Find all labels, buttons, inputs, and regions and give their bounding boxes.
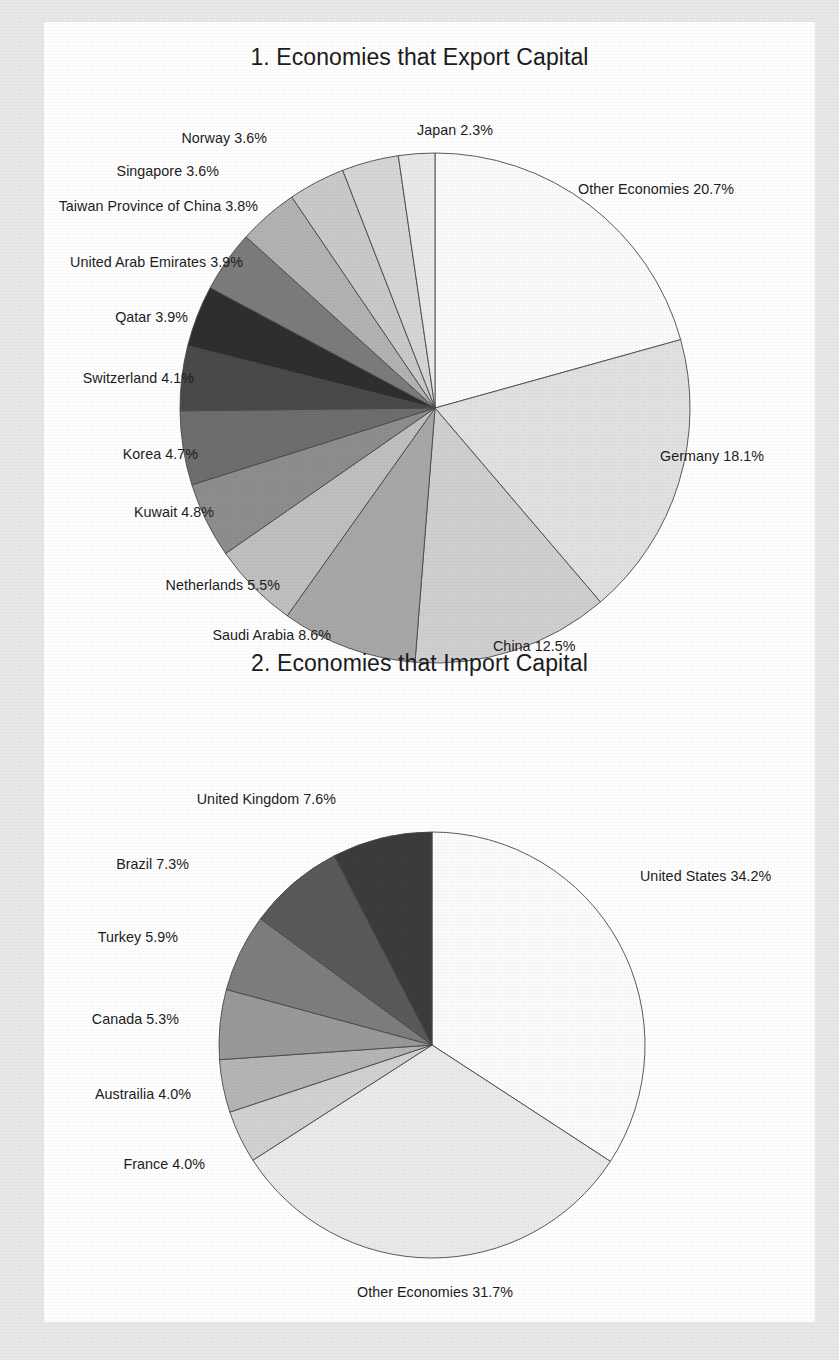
chart-1-label-united-arab-emirates: United Arab Emirates 3.9% bbox=[70, 255, 243, 271]
chart-1-label-germany: Germany 18.1% bbox=[660, 449, 764, 465]
chart-2-label-canada: Canada 5.3% bbox=[92, 1012, 179, 1028]
chart-1-label-norway: Norway 3.6% bbox=[181, 131, 267, 147]
chart-2-label-united-kingdom: United Kingdom 7.6% bbox=[197, 792, 336, 808]
chart-1-label-taiwan-province-of-china: Taiwan Province of China 3.8% bbox=[59, 199, 258, 215]
chart-1-label-qatar: Qatar 3.9% bbox=[115, 310, 188, 326]
chart-2-title: 2. Economies that Import Capital bbox=[0, 650, 839, 677]
chart-1-label-netherlands: Netherlands 5.5% bbox=[166, 578, 280, 594]
chart-1-title: 1. Economies that Export Capital bbox=[0, 44, 839, 71]
chart-1-label-switzerland: Switzerland 4.1% bbox=[83, 371, 194, 387]
chart-1-label-other-economies: Other Economies 20.7% bbox=[578, 182, 734, 198]
chart-2-label-austrailia: Austrailia 4.0% bbox=[95, 1087, 191, 1103]
chart-2-label-turkey: Turkey 5.9% bbox=[98, 930, 178, 946]
figure-page: 1. Economies that Export Capital Other E… bbox=[0, 0, 839, 1360]
chart-1-label-kuwait: Kuwait 4.8% bbox=[134, 505, 214, 521]
chart-1-label-japan: Japan 2.3% bbox=[417, 123, 493, 139]
chart-2-label-brazil: Brazil 7.3% bbox=[116, 857, 189, 873]
chart-2-label-other-economies: Other Economies 31.7% bbox=[285, 1285, 585, 1301]
chart-1-label-singapore: Singapore 3.6% bbox=[117, 164, 219, 180]
chart-2-label-united-states: United States 34.2% bbox=[640, 869, 771, 885]
chart-1-label-korea: Korea 4.7% bbox=[123, 447, 198, 463]
chart-2-label-france: France 4.0% bbox=[123, 1157, 205, 1173]
chart-1-label-saudi-arabia: Saudi Arabia 8.6% bbox=[213, 628, 332, 644]
